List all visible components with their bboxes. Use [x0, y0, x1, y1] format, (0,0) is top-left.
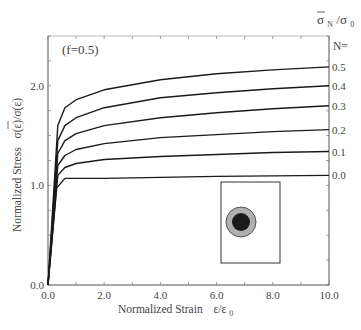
inclusion-core — [232, 213, 250, 231]
svg-text:σ N /σ 0: σ N /σ 0 — [317, 12, 354, 30]
series-line-N-0.0 — [48, 175, 329, 285]
legend-label: 0.0 — [332, 169, 346, 181]
series-line-N-0.1 — [48, 152, 329, 286]
svg-text:Normalized Stress σ(ε)/σ: Normalized Stress σ(ε)/σ(ε) — [11, 98, 24, 232]
plot-frame — [48, 36, 329, 285]
x-axis-label: Normalized Strain — [118, 303, 203, 315]
stress-strain-chart: 0.02.04.06.08.010.00.01.02.0 N=0.50.40.3… — [0, 0, 361, 330]
inset-unit-cell — [221, 182, 280, 263]
annotation-label: (f=0.5) — [62, 42, 99, 57]
x-tick-label: 2.0 — [97, 289, 111, 301]
x-tick-label: 8.0 — [266, 289, 280, 301]
x-axis-symbol: ε/ε — [214, 303, 227, 315]
legend-label: 0.1 — [332, 146, 346, 158]
y-tick-label: 1.0 — [30, 179, 44, 191]
y-axis-title: Normalized Stress σ(ε)/σ(ε) — [8, 98, 24, 232]
x-axis-title: Normalized Strain ε/ε 0 — [118, 303, 233, 318]
y-tick-label: 2.0 — [30, 80, 44, 92]
svg-text:Normalized Strain ε/ε: Normalized Strain ε/ε 0 — [118, 303, 233, 318]
legend-title: N= — [333, 40, 348, 52]
right-header-sigma: σ — [317, 12, 324, 27]
legend-label: 0.2 — [332, 124, 346, 136]
series-lines — [48, 67, 329, 285]
legend-label: 0.3 — [332, 100, 346, 112]
right-header: σ N /σ 0 — [317, 12, 354, 30]
x-tick-label: 10.0 — [319, 289, 339, 301]
right-header-den-sub: 0 — [350, 20, 354, 29]
x-axis-subscript: 0 — [229, 309, 233, 318]
legend-label: 0.5 — [332, 61, 346, 73]
y-tick-label: 0.0 — [30, 279, 44, 291]
y-axis-symbol: σ(ε)/σ(ε) — [11, 98, 24, 139]
legend: N=0.50.40.30.20.10.0 — [332, 40, 348, 181]
axis-ticks: 0.02.04.06.08.010.00.01.02.0 — [30, 36, 339, 301]
series-line-N-0.3 — [48, 106, 329, 285]
right-header-sub: N — [327, 20, 333, 29]
x-tick-label: 6.0 — [210, 289, 224, 301]
x-tick-label: 4.0 — [154, 289, 168, 301]
y-axis-label: Normalized Stress — [11, 147, 23, 232]
right-header-den: /σ — [336, 12, 347, 27]
legend-label: 0.4 — [332, 80, 346, 92]
